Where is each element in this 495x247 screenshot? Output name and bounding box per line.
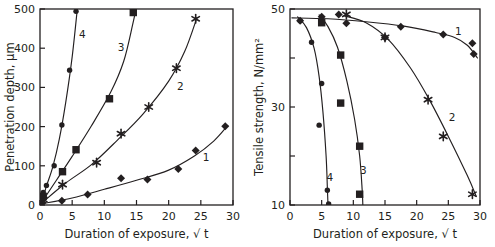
figure-two-panel-chart: 0510152025300100200300400500Duration of …	[0, 0, 495, 247]
curve-1	[41, 125, 228, 203]
data-point-diamond	[439, 30, 447, 38]
y-tick-label: 500	[14, 3, 35, 16]
data-point-circle	[326, 201, 331, 206]
x-axis-title: Duration of exposure, √ t	[313, 227, 457, 241]
data-point-square	[72, 146, 79, 153]
data-point-circle	[41, 190, 46, 195]
data-point-square	[318, 19, 325, 26]
y-tick-label: 400	[14, 42, 35, 55]
data-point-diamond	[58, 197, 66, 205]
x-tick-label: 30	[473, 210, 487, 223]
y-tick-label: 300	[14, 81, 35, 94]
y-tick-label: 100	[14, 160, 35, 173]
data-point-circle	[297, 18, 302, 23]
plot-frame	[40, 9, 233, 205]
data-point-circle	[67, 67, 72, 72]
data-point-diamond	[221, 122, 229, 130]
x-axis-title: Duration of exposure, √ t	[65, 227, 209, 241]
curve-label-1: 1	[203, 151, 210, 163]
curve-label-3: 3	[360, 164, 367, 176]
x-tick-label: 10	[97, 210, 111, 223]
x-tick-label: 25	[194, 210, 208, 223]
y-tick-label: 10	[271, 199, 285, 212]
data-point-square	[337, 99, 344, 106]
data-point-diamond	[84, 190, 92, 198]
curve-label-1: 1	[455, 25, 462, 37]
data-point-circle	[73, 9, 78, 14]
x-tick-label: 20	[410, 210, 424, 223]
x-tick-label: 30	[226, 210, 240, 223]
curve-3	[41, 9, 136, 203]
data-point-diamond	[468, 39, 476, 47]
data-point-square	[106, 95, 113, 102]
data-point-diamond	[335, 10, 343, 18]
x-tick-label: 5	[69, 210, 76, 223]
penetration-depth-plot: 0510152025300100200300400500Duration of …	[0, 0, 248, 247]
y-tick-label: 50	[271, 3, 285, 16]
y-tick-label: 0	[28, 199, 35, 212]
y-axis-title: Penetration depth, µm	[3, 42, 17, 171]
y-axis-title: Tensile strength, N/mm²	[252, 38, 266, 177]
data-point-square	[59, 168, 66, 175]
curve-label-4: 4	[79, 28, 86, 40]
data-point-diamond	[397, 23, 405, 31]
chart-panel-penetration-depth: 0510152025300100200300400500Duration of …	[0, 0, 248, 247]
data-point-circle	[51, 163, 56, 168]
data-point-circle	[309, 40, 314, 45]
data-point-square	[356, 143, 363, 150]
data-point-square	[356, 191, 363, 198]
x-tick-label: 15	[378, 210, 392, 223]
x-tick-label: 15	[130, 210, 144, 223]
curve-label-3: 3	[118, 41, 125, 53]
x-tick-label: 0	[37, 210, 44, 223]
data-point-star	[173, 64, 180, 73]
curve-label-2: 2	[449, 111, 456, 123]
data-point-circle	[325, 188, 330, 193]
data-point-square	[337, 51, 344, 58]
series-3	[40, 9, 137, 203]
tensile-strength-plot: 051015202530103050Duration of exposure, …	[248, 0, 495, 247]
data-point-star	[440, 132, 447, 141]
series-layer	[292, 10, 478, 207]
data-point-circle	[44, 183, 49, 188]
data-point-star	[192, 15, 199, 24]
data-point-diamond	[174, 165, 182, 173]
series-layer	[39, 9, 230, 207]
data-point-square	[130, 9, 137, 16]
series-3	[318, 15, 363, 205]
data-point-diamond	[117, 174, 125, 182]
y-tick-label: 200	[14, 121, 35, 134]
x-tick-label: 5	[318, 210, 325, 223]
data-point-circle	[59, 122, 64, 127]
chart-panel-tensile-strength: 051015202530103050Duration of exposure, …	[248, 0, 495, 247]
data-point-circle	[316, 122, 321, 127]
y-tick-label: 30	[271, 101, 285, 114]
curve-label-2: 2	[177, 80, 184, 92]
x-tick-label: 10	[346, 210, 360, 223]
x-tick-label: 0	[287, 210, 294, 223]
x-tick-label: 20	[162, 210, 176, 223]
x-tick-label: 25	[441, 210, 455, 223]
data-point-circle	[319, 81, 324, 86]
curve-4	[298, 17, 328, 205]
curve-label-4: 4	[327, 171, 334, 183]
